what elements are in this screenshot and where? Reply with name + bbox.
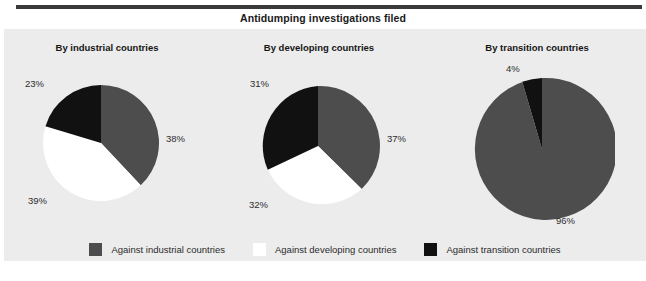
legend-item-transition: Against transition countries xyxy=(424,243,560,256)
pie-chart-industrial: By industrial countries 38% 39% 23% xyxy=(0,29,214,239)
top-divider-rule xyxy=(16,5,642,9)
legend-item-industrial: Against industrial countries xyxy=(89,243,225,256)
legend-label-developing: Against developing countries xyxy=(275,244,396,255)
pie-1-svg xyxy=(42,84,160,202)
pie-3-label-industrial: 96% xyxy=(556,215,575,226)
pie-1-title: By industrial countries xyxy=(0,42,214,53)
pie-2-svg xyxy=(256,84,380,208)
pie-2-label-industrial: 37% xyxy=(387,133,406,144)
pie-3-title: By transition countries xyxy=(428,42,646,53)
pie-1-label-industrial: 38% xyxy=(166,133,185,144)
pie-chart-transition: By transition countries 96% 4% xyxy=(428,29,646,239)
legend-label-transition: Against transition countries xyxy=(446,244,560,255)
pie-2-title: By developing countries xyxy=(212,42,426,53)
pie-1-label-developing: 39% xyxy=(28,195,47,206)
pie-chart-developing: By developing countries 37% 32% 31% xyxy=(212,29,426,239)
legend-swatch-white-icon xyxy=(253,243,266,256)
legend-label-industrial: Against industrial countries xyxy=(111,244,225,255)
pie-2-label-developing: 32% xyxy=(249,199,268,210)
pie-2-label-transition: 31% xyxy=(250,78,269,89)
legend-swatch-black-icon xyxy=(424,243,437,256)
legend-swatch-gray-icon xyxy=(89,243,102,256)
pie-1-label-transition: 23% xyxy=(25,78,44,89)
legend: Against industrial countries Against dev… xyxy=(4,239,646,259)
pie-3-label-transition: 4% xyxy=(506,63,520,74)
page-title: Antidumping investigations filed xyxy=(0,12,646,24)
legend-item-developing: Against developing countries xyxy=(253,243,396,256)
pie-3-slice-industrial xyxy=(475,78,615,220)
pie-3-svg xyxy=(469,76,615,222)
